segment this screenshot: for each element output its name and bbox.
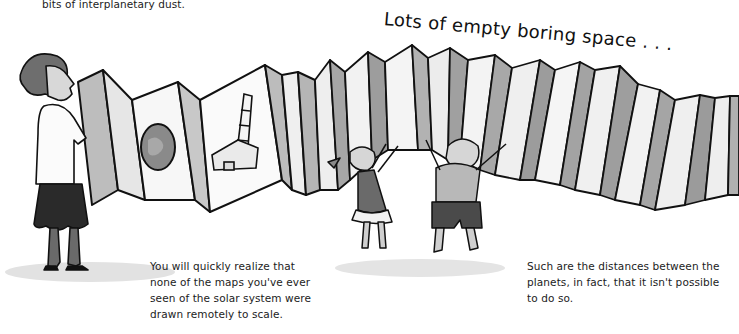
- caption-line: Such are the distances between the: [527, 258, 739, 274]
- book-page: bits of interplanetary dust. Lots of emp…: [0, 0, 739, 334]
- caption-line: none of the maps you've ever: [150, 274, 340, 290]
- planet-icon: [141, 124, 175, 170]
- ground-shadow: [335, 259, 505, 277]
- caption-line: You will quickly realize that: [150, 258, 340, 274]
- caption-line: drawn remotely to scale.: [150, 306, 340, 322]
- girl-figure: [328, 144, 398, 248]
- caption-distances: Such are the distances between the plane…: [527, 258, 739, 306]
- accordion-map: [78, 65, 320, 212]
- caption-scale: You will quickly realize that none of th…: [150, 258, 340, 322]
- caption-line: to do so.: [527, 290, 739, 306]
- caption-line: seen of the solar system were: [150, 290, 340, 306]
- caption-line: planets, in fact, that it isn't possible: [527, 274, 739, 290]
